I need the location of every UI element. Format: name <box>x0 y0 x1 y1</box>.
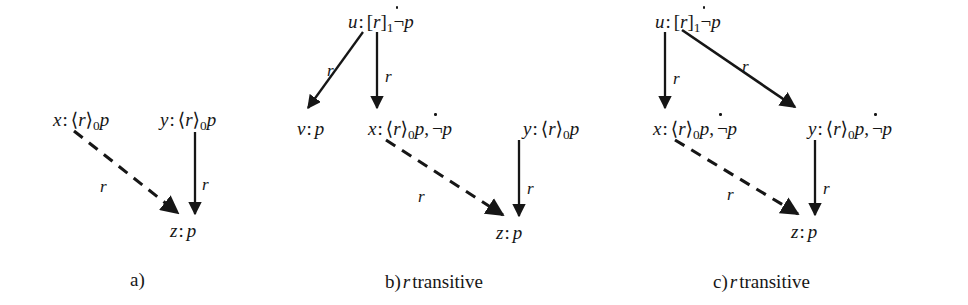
node-c-x: x:⟨r⟩0p,¬p <box>653 119 737 141</box>
negation-dot-icon <box>703 6 705 8</box>
diamond-close-icon: ⟩ <box>686 118 693 139</box>
node-c-x-comma: , <box>709 118 717 139</box>
caption-c-relation: r <box>728 271 739 292</box>
node-c-u-colon: : <box>665 11 674 32</box>
negation-bar-icon: ¬ <box>717 119 728 138</box>
caption-c-prefix: c) <box>713 271 728 292</box>
node-c-x-sub: 0 <box>693 127 700 142</box>
edge-label-c-y-z: r <box>823 180 830 197</box>
node-c-y-prop1: p <box>855 118 865 139</box>
dotted-negation-icon: ¬ <box>872 119 883 138</box>
tableau-figure: x:⟨r⟩0p y:⟨r⟩0p z:p r r a) u:[r]1¬p v:p … <box>0 0 968 305</box>
node-c-u-prop: p <box>711 11 721 32</box>
node-c-z-colon: : <box>798 221 807 242</box>
node-c-y: y:⟨r⟩0p,¬p <box>808 119 892 141</box>
negation-dot-icon <box>874 113 876 115</box>
negation-bar-icon: ¬ <box>872 119 883 138</box>
negation-dot-icon <box>719 113 721 115</box>
dotted-negation-icon: ¬ <box>717 119 728 138</box>
node-c-x-colon: : <box>661 118 670 139</box>
caption-c-text: transitive <box>739 271 810 292</box>
node-c-y-sub: 0 <box>848 127 855 142</box>
edge-label-c-u-x: r <box>673 70 680 87</box>
panel-c: u:[r]1¬p x:⟨r⟩0p,¬p y:⟨r⟩0p,¬p z:p r r r… <box>0 0 968 305</box>
node-c-u-var: u <box>655 11 665 32</box>
node-c-u-rel: r <box>680 11 687 32</box>
node-c-z: z:p <box>791 222 817 241</box>
node-c-y-colon: : <box>816 118 825 139</box>
node-c-u-sub: 1 <box>694 20 701 35</box>
node-c-x-prop1: p <box>700 118 710 139</box>
diamond-close-icon: ⟩ <box>841 118 848 139</box>
edge-label-c-u-y: r <box>742 58 749 75</box>
node-c-y-rel: r <box>833 118 840 139</box>
caption-c: c)rtransitive <box>713 272 810 291</box>
node-c-x-rel: r <box>678 118 685 139</box>
negation-bar-icon: ¬ <box>701 12 712 31</box>
edge-label-c-x-z: r <box>727 186 734 203</box>
node-c-u: u:[r]1¬p <box>655 12 721 34</box>
dotted-negation-icon: ¬ <box>701 12 712 31</box>
node-c-y-prop2: p <box>883 118 893 139</box>
node-c-x-prop2: p <box>728 118 738 139</box>
node-c-z-prop: p <box>808 221 818 242</box>
node-c-y-comma: , <box>864 118 872 139</box>
